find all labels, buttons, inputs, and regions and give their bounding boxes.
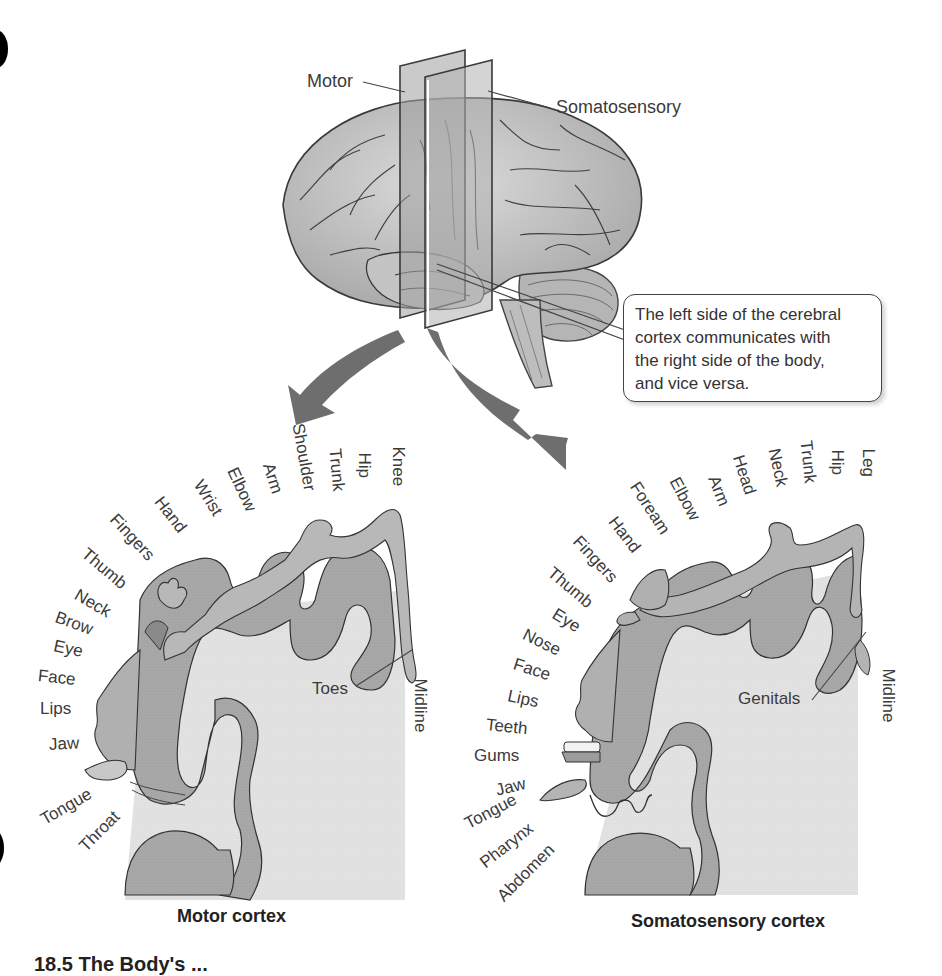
motor-label-trunk: Trunk [327,448,348,492]
somatosensory-cortex-section [540,523,870,895]
motor-label-hip: Hip [356,453,373,479]
motor-label-jaw: Jaw [49,734,80,753]
sensory-label-midline: Midline [880,669,897,723]
contralateral-callout: The left side of the cerebral cortex com… [623,294,882,402]
sensory-label-hip: Hip [829,450,846,476]
callout-line: The left side of the cerebral [635,303,871,326]
sensory-label-leg: Leg [860,449,877,477]
figure-caption-partial: 18.5 The Body's ... [34,953,208,976]
motor-label-face: Face [37,667,76,688]
callout-line: and vice versa. [635,372,871,395]
motor-plane-label: Motor [307,72,353,90]
motor-cortex-title: Motor cortex [177,906,286,927]
arrow-to-somatosensory-cortex [427,328,568,470]
motor-label-toes: Toes [312,680,348,697]
sensory-label-teeth: Teeth [485,716,528,737]
motor-cortex-section [85,510,416,900]
sensory-label-genitals: Genitals [738,690,800,707]
sensory-label-gums: Gums [474,747,519,764]
motor-label-midline: Midline [412,679,429,733]
callout-line: the right side of the body, [635,349,871,372]
sensory-label-trunk: Trunk [798,440,819,484]
somatosensory-cortex-title: Somatosensory cortex [631,911,825,932]
motor-label-lips: Lips [40,700,71,717]
somatosensory-plane-label: Somatosensory [556,98,681,116]
motor-label-knee: Knee [390,447,407,487]
arrow-to-motor-cortex [288,330,405,425]
callout-line: cortex communicates with [635,326,871,349]
